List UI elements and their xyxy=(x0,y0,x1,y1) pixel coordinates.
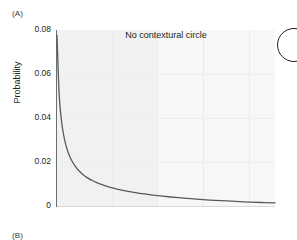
y-axis-tick: 0.02 xyxy=(0,157,51,167)
y-axis-tick: 0.08 xyxy=(0,25,51,35)
panel-letter-a: (A) xyxy=(12,10,23,18)
y-axis-tick-label: 0.04 xyxy=(34,113,51,122)
y-axis-tick-label: 0.06 xyxy=(34,69,51,78)
y-axis-tick: 0.06 xyxy=(0,69,51,79)
probability-curve-path xyxy=(57,36,275,203)
y-axis-tick: 0.04 xyxy=(0,113,51,123)
figure-panel-a: (A) (B) Probability 0.080.060.040.020 No… xyxy=(0,0,297,240)
x-axis-line xyxy=(57,206,275,207)
contextual-circle-marker xyxy=(277,28,297,62)
y-axis-tick-label: 0.08 xyxy=(34,25,51,34)
y-axis-tick-label: 0.02 xyxy=(34,157,51,166)
panel-letter-b: (B) xyxy=(12,232,23,240)
y-axis-tick: 0 xyxy=(0,201,51,211)
plot-area xyxy=(57,30,275,206)
y-axis-tick-label: 0 xyxy=(46,201,51,210)
probability-curve xyxy=(57,30,275,206)
plot-title: No contextural circle xyxy=(57,31,275,40)
